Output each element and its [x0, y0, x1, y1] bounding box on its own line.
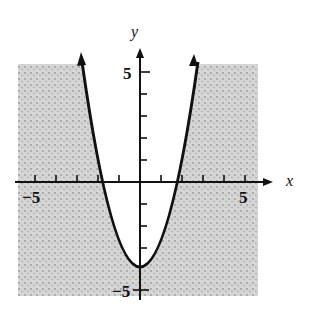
y-axis-arrow-icon — [136, 48, 144, 58]
x-axis-arrow-icon — [263, 178, 273, 186]
curve-arrow-right-icon — [189, 54, 198, 66]
y-axis-label: y — [129, 23, 139, 41]
shaded-region — [18, 40, 258, 296]
x-axis-label: x — [285, 172, 293, 189]
x-tick-label-neg5: −5 — [22, 188, 40, 207]
y-tick-label-5: 5 — [123, 64, 132, 83]
x-tick-label-5: 5 — [239, 188, 248, 207]
curve-arrow-left-icon — [77, 52, 86, 66]
y-tick-label-neg5: −5 — [112, 282, 130, 301]
graph: y x 5 −5 −5 5 — [0, 0, 311, 318]
